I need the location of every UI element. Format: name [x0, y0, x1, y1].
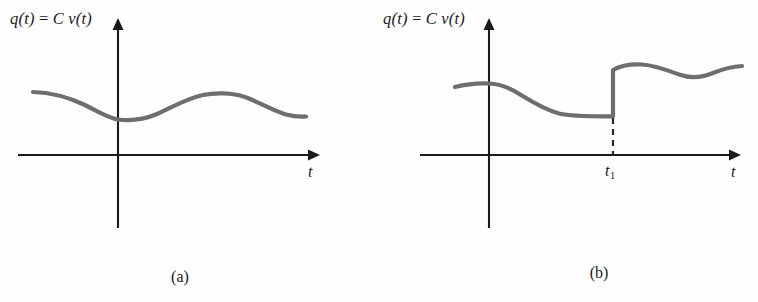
- panel-a: q(t) = C v(t) t (a): [0, 0, 379, 302]
- y-axis-label-a-v: v(t): [64, 9, 92, 28]
- t1-tick-label: t1: [605, 162, 615, 180]
- y-axis-label-a-equals: =: [35, 9, 53, 28]
- caption-a: (a): [150, 268, 210, 286]
- t1-tick-label-base: t: [605, 162, 609, 179]
- x-axis-label-b: t: [731, 163, 735, 181]
- y-axis-label-b-q: q(t): [383, 9, 408, 28]
- panel-b: q(t) = C v(t) t t1 (b): [379, 0, 758, 302]
- charge-waveform-b-after: [613, 64, 742, 77]
- y-axis-label-b-c: C: [426, 9, 437, 28]
- y-axis-arrowhead: [113, 18, 124, 30]
- charge-waveform-b-before: [455, 83, 613, 116]
- figure-container: q(t) = C v(t) t (a) q(t) = C v(t) t: [0, 0, 758, 302]
- x-axis-arrowhead: [308, 150, 320, 161]
- y-axis-label-a: q(t) = C v(t): [10, 9, 92, 29]
- caption-b: (b): [569, 264, 629, 282]
- t1-tick-label-subscript: 1: [610, 170, 615, 181]
- y-axis-label-b-v: v(t): [437, 9, 465, 28]
- panel-b-plot: [379, 0, 758, 302]
- panel-a-plot: [0, 0, 379, 302]
- y-axis-label-b: q(t) = C v(t): [383, 9, 465, 29]
- y-axis-arrowhead: [484, 18, 495, 30]
- y-axis-label-a-q: q(t): [10, 9, 35, 28]
- x-axis-label-a: t: [308, 163, 312, 181]
- x-axis-arrowhead: [729, 150, 741, 161]
- y-axis-label-b-equals: =: [408, 9, 426, 28]
- y-axis-label-a-c: C: [53, 9, 64, 28]
- charge-waveform-a: [33, 92, 306, 120]
